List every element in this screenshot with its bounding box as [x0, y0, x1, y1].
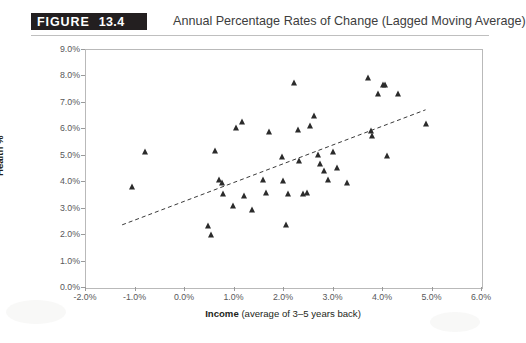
data-point	[330, 149, 336, 155]
data-point	[369, 133, 375, 139]
x-tick-label: 1.0%	[223, 292, 243, 302]
data-point	[375, 90, 381, 96]
x-tick-label: 6.0%	[471, 292, 491, 302]
x-axis-label-strong: Income	[205, 308, 239, 319]
data-point	[285, 191, 291, 197]
y-tick-mark	[81, 234, 85, 235]
scan-artifact	[6, 300, 66, 324]
x-tick-mark	[184, 287, 185, 291]
data-point	[311, 113, 317, 119]
data-point	[129, 183, 135, 189]
x-tick-mark	[382, 287, 383, 291]
data-point	[220, 191, 226, 197]
data-point	[317, 160, 323, 166]
x-tick-label: 3.0%	[322, 292, 342, 302]
data-point	[239, 118, 245, 124]
y-tick-mark	[81, 128, 85, 129]
data-point	[395, 90, 401, 96]
figure-header: FIGURE 13.4 Annual Percentage Rates of C…	[0, 6, 514, 32]
x-tick-label: 4.0%	[372, 292, 392, 302]
x-tick-mark	[234, 287, 235, 291]
data-point	[249, 207, 255, 213]
x-tick-mark	[283, 287, 284, 291]
data-point	[344, 179, 350, 185]
data-point	[315, 151, 321, 157]
data-point	[283, 221, 289, 227]
data-point	[334, 164, 340, 170]
data-point	[384, 152, 390, 158]
y-tick-mark	[81, 287, 85, 288]
data-point	[205, 223, 211, 229]
figure-badge: FIGURE 13.4	[31, 13, 147, 30]
y-tick-mark	[81, 49, 85, 50]
figure-badge-number: 13.4	[99, 15, 125, 29]
x-axis-label: Income (average of 3–5 years back)	[205, 308, 361, 319]
data-point	[241, 192, 247, 198]
y-tick-mark	[81, 208, 85, 209]
data-point	[279, 154, 285, 160]
data-point	[295, 126, 301, 132]
y-tick-mark	[81, 155, 85, 156]
data-point	[230, 203, 236, 209]
data-point	[219, 179, 225, 185]
x-tick-label: 2.0%	[273, 292, 293, 302]
x-tick-label: -1.0%	[123, 292, 146, 302]
data-point	[212, 147, 218, 153]
x-tick-mark	[135, 287, 136, 291]
y-tick-mark	[81, 75, 85, 76]
data-point	[208, 231, 214, 237]
data-point	[325, 176, 331, 182]
figure-title: Annual Percentage Rates of Change (Lagge…	[173, 14, 526, 28]
x-tick-mark	[85, 287, 86, 291]
x-axis-label-rest: (average of 3–5 years back)	[239, 308, 361, 319]
x-tick-mark	[333, 287, 334, 291]
data-point	[280, 178, 286, 184]
data-point	[321, 167, 327, 173]
data-point	[291, 80, 297, 86]
y-tick-mark	[81, 181, 85, 182]
x-tick-mark	[432, 287, 433, 291]
x-tick-label: 0.0%	[174, 292, 194, 302]
figure-badge-word: FIGURE	[37, 15, 90, 29]
data-point	[423, 121, 429, 127]
data-point	[263, 190, 269, 196]
data-point	[365, 74, 371, 80]
x-tick-label: 5.0%	[421, 292, 441, 302]
x-tick-label: -2.0%	[74, 292, 97, 302]
data-point	[307, 122, 313, 128]
data-point	[266, 129, 272, 135]
data-point	[382, 81, 388, 87]
data-point	[296, 158, 302, 164]
data-point	[142, 149, 148, 155]
y-tick-mark	[81, 102, 85, 103]
y-tick-mark	[81, 261, 85, 262]
data-point	[260, 176, 266, 182]
scan-artifact	[430, 312, 480, 332]
scatter-chart: Health % 0.0%1.0%2.0%3.0%4.0%5.0%6.0%7.0…	[0, 36, 514, 336]
data-point	[233, 125, 239, 131]
x-tick-mark	[481, 287, 482, 291]
data-point	[304, 190, 310, 196]
data-markers	[85, 49, 481, 287]
